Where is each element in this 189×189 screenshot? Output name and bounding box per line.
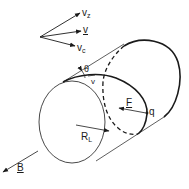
charge-q-dot xyxy=(146,112,149,115)
vz-label: vz xyxy=(82,8,91,19)
force-arrow xyxy=(119,108,146,113)
theta-label: θ xyxy=(84,65,89,74)
charge-label: q xyxy=(149,107,155,117)
force-label: F xyxy=(126,98,132,108)
vc-label-sub: c xyxy=(82,47,86,54)
front-cross-section xyxy=(39,81,105,163)
vz-label-sub: z xyxy=(87,12,91,19)
larmor-radius-label: RL xyxy=(81,132,92,143)
v-small-label: v xyxy=(91,78,95,86)
magnetic-field-label: B xyxy=(17,163,24,173)
vz-arrow xyxy=(40,13,80,37)
v-label: v xyxy=(83,25,88,35)
diagram-canvas xyxy=(0,0,189,189)
cylinder-outline xyxy=(63,44,164,161)
velocity-vectors xyxy=(40,13,81,46)
helix-diagram: vz v vc θ v F q RL B xyxy=(0,0,189,189)
vc-arrow xyxy=(40,37,75,46)
cylinder-bottom-edge xyxy=(96,117,164,161)
radius-label-sub: L xyxy=(88,136,92,143)
vc-label: vc xyxy=(77,43,86,54)
v-arrow xyxy=(40,31,81,37)
